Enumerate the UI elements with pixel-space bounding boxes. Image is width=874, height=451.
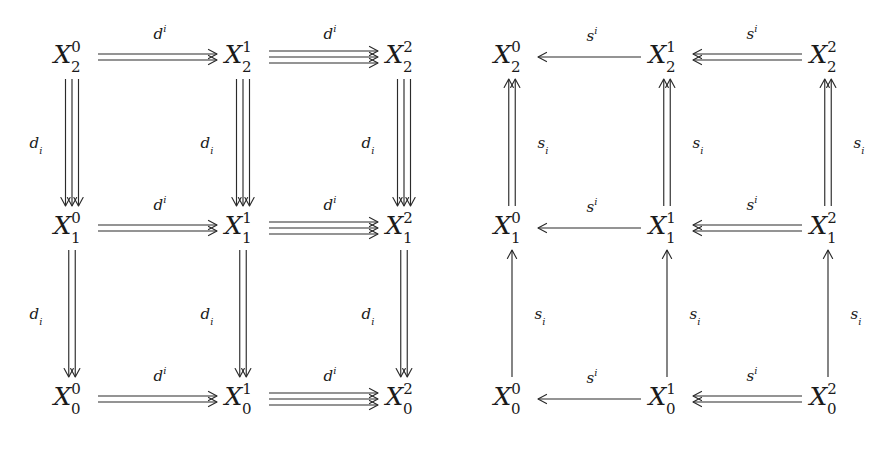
edge-label-index: i <box>39 145 42 156</box>
edge-label-rv-c1-upper: si <box>693 136 704 154</box>
h-mid-b-line-2 <box>269 229 378 238</box>
edge-label-h-top-b: di <box>324 25 337 42</box>
v-c0-upper-line-0 <box>61 79 70 206</box>
rv-c2-upper-line-0 <box>820 79 829 206</box>
node-subscript: 1 <box>403 229 413 247</box>
node-subscript: 0 <box>71 400 81 418</box>
edge-label-h-top-a: di <box>154 25 167 42</box>
edge-label-base: d <box>154 196 164 214</box>
node-base: X <box>225 382 243 411</box>
h-mid-b-line-0 <box>269 217 378 226</box>
edge-label-base: s <box>851 305 859 323</box>
v-c2-upper-line-1 <box>399 79 408 206</box>
edge-label-index: i <box>594 196 597 207</box>
edge-label-base: d <box>154 25 164 43</box>
edge-label-base: d <box>324 25 334 43</box>
h-mid-a-line-1 <box>98 226 217 235</box>
node-subscript: 2 <box>242 58 252 76</box>
node-subscript: 2 <box>666 58 676 76</box>
node-superscript: 2 <box>403 380 413 398</box>
edge-label-base: s <box>854 134 862 152</box>
edge-label-rh-bot-a: si <box>587 369 598 386</box>
node-base: X <box>386 40 404 69</box>
node-base: X <box>54 211 72 240</box>
rv-c1-lower-line-0 <box>662 250 671 377</box>
node-superscript: 1 <box>242 380 252 398</box>
node-n-1-2: X21 <box>386 213 423 243</box>
node-subscript: 2 <box>71 58 81 76</box>
edge-label-base: s <box>535 305 543 323</box>
edge-label-index: i <box>163 23 166 34</box>
edge-label-index: i <box>210 316 213 327</box>
node-superscript: 0 <box>511 380 521 398</box>
edge-label-index: i <box>754 23 757 34</box>
edge-label-index: i <box>333 23 336 34</box>
rv-c1-upper-line-1 <box>666 79 675 206</box>
node-superscript: 1 <box>242 209 252 227</box>
node-subscript: 1 <box>511 229 521 247</box>
rh-mid-a-line-0 <box>538 223 641 232</box>
node-superscript: 2 <box>827 209 837 227</box>
node-base: X <box>649 382 667 411</box>
h-bot-a-line-1 <box>98 397 217 406</box>
edge-label-base: d <box>201 305 211 323</box>
rv-c2-lower-line-0 <box>823 250 832 377</box>
node-base: X <box>494 211 512 240</box>
rh-bot-b-line-1 <box>693 397 802 406</box>
node-subscript: 2 <box>403 58 413 76</box>
node-base: X <box>494 382 512 411</box>
rh-mid-b-line-1 <box>693 226 802 235</box>
h-bot-a-line-0 <box>98 391 217 400</box>
node-base: X <box>225 211 243 240</box>
v-c1-lower-line-0 <box>235 250 244 377</box>
h-bot-b-line-0 <box>269 388 378 397</box>
node-subscript: 0 <box>511 400 521 418</box>
node-base: X <box>54 40 72 69</box>
node-subscript: 1 <box>71 229 81 247</box>
edge-label-rv-c0-lower: si <box>535 307 546 325</box>
edge-label-index: i <box>371 316 374 327</box>
edge-label-index: i <box>333 194 336 205</box>
edge-label-base: d <box>154 367 164 385</box>
v-c2-upper-line-0 <box>393 79 402 206</box>
node-superscript: 2 <box>827 38 837 56</box>
v-c1-upper-line-0 <box>232 79 241 206</box>
node-base: X <box>810 40 828 69</box>
node-base: X <box>649 40 667 69</box>
h-top-a-line-0 <box>98 49 217 58</box>
node-m-1-2: X21 <box>810 213 847 243</box>
edge-label-v-c1-lower: di <box>201 307 214 325</box>
edge-label-base: s <box>690 305 698 323</box>
rh-bot-b-line-0 <box>693 391 802 400</box>
edge-label-index: i <box>754 194 757 205</box>
node-m-1-0: X01 <box>494 213 531 243</box>
node-base: X <box>810 382 828 411</box>
node-m-0-0: X00 <box>494 384 531 414</box>
edge-label-index: i <box>542 316 545 327</box>
node-superscript: 0 <box>71 209 81 227</box>
node-subscript: 1 <box>242 229 252 247</box>
node-superscript: 1 <box>666 38 676 56</box>
v-c2-lower-line-1 <box>403 250 412 377</box>
edge-label-base: s <box>587 27 595 45</box>
node-base: X <box>649 211 667 240</box>
edge-label-base: d <box>362 134 372 152</box>
v-c2-lower-line-0 <box>396 250 405 377</box>
edge-label-base: s <box>587 198 595 216</box>
edge-label-index: i <box>545 145 548 156</box>
rv-c0-upper-line-1 <box>511 79 520 206</box>
v-c1-upper-line-2 <box>245 79 254 206</box>
edge-label-h-mid-b: di <box>324 196 337 213</box>
node-m-2-2: X22 <box>810 42 847 72</box>
node-n-0-0: X00 <box>54 384 91 414</box>
edge-label-index: i <box>163 365 166 376</box>
rh-bot-a-line-0 <box>538 394 641 403</box>
edge-label-base: d <box>324 367 334 385</box>
edge-label-h-bot-b: di <box>324 367 337 384</box>
node-n-2-2: X22 <box>386 42 423 72</box>
node-n-1-1: X11 <box>225 213 262 243</box>
node-base: X <box>386 382 404 411</box>
edge-label-base: s <box>747 25 755 43</box>
edge-label-index: i <box>210 145 213 156</box>
h-top-a-line-1 <box>98 55 217 64</box>
